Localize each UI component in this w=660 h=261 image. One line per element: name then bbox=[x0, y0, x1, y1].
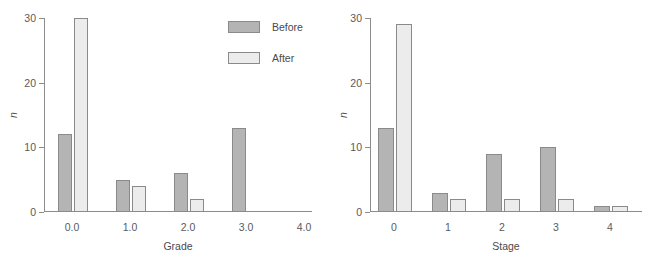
bar-after-1 bbox=[450, 199, 466, 212]
bar-after-0 bbox=[396, 24, 412, 212]
y-axis-tick bbox=[365, 83, 370, 84]
legend-item-before: Before bbox=[228, 18, 303, 36]
bar-before-2.0 bbox=[174, 173, 188, 212]
x-axis-tick-label: 1.0 bbox=[123, 221, 138, 233]
y-axis-tick-label: 0 bbox=[356, 206, 362, 218]
y-axis-tick-label: 20 bbox=[350, 77, 362, 89]
x-axis-title: Stage bbox=[492, 240, 519, 252]
y-axis-tick-label: 10 bbox=[24, 141, 36, 153]
bar-before-3 bbox=[540, 147, 556, 212]
y-axis-tick bbox=[365, 147, 370, 148]
x-axis-tick-label: 2 bbox=[499, 221, 505, 233]
y-axis-tick-label: 20 bbox=[24, 77, 36, 89]
legend-label-after: After bbox=[272, 52, 294, 64]
legend-item-after: After bbox=[228, 49, 303, 67]
bar-after-1.0 bbox=[132, 186, 146, 212]
y-axis-tick bbox=[39, 212, 44, 213]
x-axis-tick-label: 4 bbox=[607, 221, 613, 233]
y-axis-tick bbox=[39, 147, 44, 148]
y-axis-tick-label: 0 bbox=[30, 206, 36, 218]
y-axis-title: n bbox=[337, 112, 349, 118]
y-axis-line bbox=[370, 18, 371, 212]
y-axis-tick bbox=[365, 18, 370, 19]
x-axis-tick-label: 3.0 bbox=[239, 221, 254, 233]
x-axis-tick-label: 0.0 bbox=[65, 221, 80, 233]
y-axis-tick bbox=[39, 83, 44, 84]
chart-panel-grade: n Grade 01020300.01.02.03.04.0 Before Af… bbox=[0, 0, 330, 261]
y-axis-tick-label: 10 bbox=[350, 141, 362, 153]
bar-after-2.0 bbox=[190, 199, 204, 212]
x-axis-tick-label: 0 bbox=[391, 221, 397, 233]
x-axis-tick-label: 3 bbox=[553, 221, 559, 233]
bar-before-1 bbox=[432, 193, 448, 212]
x-axis-title: Grade bbox=[163, 240, 192, 252]
chart-panel-stage: n Stage 010203001234 Before After bbox=[330, 0, 660, 261]
bar-before-4 bbox=[594, 206, 610, 212]
y-axis-title: n bbox=[7, 112, 19, 118]
x-axis-tick-label: 2.0 bbox=[181, 221, 196, 233]
y-axis-line bbox=[44, 18, 45, 212]
legend-swatch-before-icon bbox=[228, 21, 260, 33]
y-axis-tick-label: 30 bbox=[350, 12, 362, 24]
bar-after-4 bbox=[612, 206, 628, 212]
legend-swatch-after-icon bbox=[228, 52, 260, 64]
x-axis-tick-label: 4.0 bbox=[297, 221, 312, 233]
bar-before-0.0 bbox=[58, 134, 72, 212]
y-axis-tick bbox=[365, 212, 370, 213]
bar-before-3.0 bbox=[232, 128, 246, 212]
y-axis-tick bbox=[39, 18, 44, 19]
bar-before-1.0 bbox=[116, 180, 130, 212]
legend-label-before: Before bbox=[272, 21, 303, 33]
bar-after-0.0 bbox=[74, 18, 88, 212]
bar-after-3 bbox=[558, 199, 574, 212]
plot-area-stage: n Stage 010203001234 bbox=[370, 18, 642, 212]
bar-before-2 bbox=[486, 154, 502, 212]
x-axis-tick-label: 1 bbox=[445, 221, 451, 233]
figure-two-bar-charts: n Grade 01020300.01.02.03.04.0 Before Af… bbox=[0, 0, 660, 261]
legend-grade: Before After bbox=[228, 18, 303, 80]
bar-before-0 bbox=[378, 128, 394, 212]
y-axis-tick-label: 30 bbox=[24, 12, 36, 24]
bar-after-2 bbox=[504, 199, 520, 212]
